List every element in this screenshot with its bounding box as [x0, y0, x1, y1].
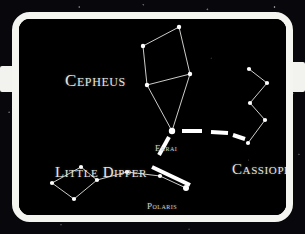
constellation-canvas: [19, 19, 286, 215]
star-segin: [247, 67, 251, 71]
star-chart: Cepheus Little Dipper Cassiopeia Errai P…: [0, 0, 305, 234]
constellation-label-cassiopeia: Cassiopeia: [232, 161, 286, 178]
star-errai: [169, 128, 175, 134]
star-dipper-handle-2: [158, 174, 162, 178]
star-label-polaris: Polaris: [147, 201, 177, 211]
star-alderamin: [141, 44, 145, 48]
star-label-errai: Errai: [155, 143, 177, 153]
cassiopeia-zigzag: [248, 69, 267, 143]
star-zeta-cephei: [188, 72, 192, 76]
sky-panel: Cepheus Little Dipper Cassiopeia Errai P…: [19, 19, 286, 215]
star-iota-cephei: [145, 83, 149, 87]
cepheus-quadrilateral: [143, 27, 190, 85]
constellation-label-little-dipper: Little Dipper: [55, 164, 147, 181]
constellation-cepheus: [141, 25, 192, 134]
cepheus-roof-lines: [147, 74, 190, 131]
star-gamma-cassiopeiae: [248, 101, 252, 105]
star-dipper-bowl-south: [72, 197, 76, 201]
star-alfirk: [177, 25, 181, 29]
star-schedar: [263, 118, 267, 122]
constellation-label-cepheus: Cepheus: [65, 71, 126, 91]
star-dipper-bowl-northwest: [50, 181, 54, 185]
constellation-cassiopeia: [246, 67, 269, 145]
star-ruchbah: [265, 81, 269, 85]
pointer-dash-segment: [211, 132, 228, 133]
star-caph: [246, 141, 250, 145]
pointer-dash-segment: [233, 135, 245, 139]
pointer-line-errai-to-cassiopeia: [182, 131, 245, 139]
